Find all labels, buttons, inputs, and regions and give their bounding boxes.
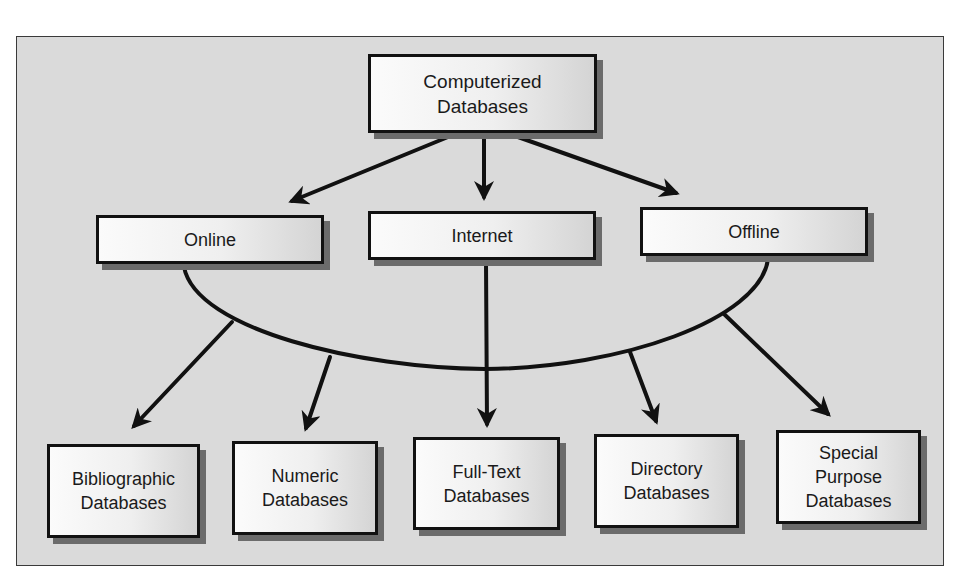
node-directory-databases: Directory Databases	[594, 434, 739, 528]
node-label: Online	[184, 228, 236, 252]
node-special-purpose-databases: Special Purpose Databases	[776, 430, 921, 524]
arrow-root-to-online	[292, 137, 448, 201]
node-bibliographic-databases: Bibliographic Databases	[47, 444, 200, 538]
arrow-to-special	[724, 314, 828, 414]
node-label: Numeric Databases	[262, 464, 348, 512]
arrow-to-bibliographic	[134, 322, 232, 426]
node-label: Special Purpose Databases	[805, 441, 891, 513]
arrow-to-fulltext	[486, 262, 487, 424]
node-label: Bibliographic Databases	[72, 467, 175, 515]
node-computerized-databases: Computerized Databases	[368, 54, 597, 133]
node-offline: Offline	[640, 207, 868, 256]
node-label: Internet	[451, 224, 512, 248]
node-label: Directory Databases	[623, 457, 709, 505]
node-label: Computerized Databases	[423, 69, 541, 119]
arrow-to-numeric	[306, 357, 330, 428]
node-numeric-databases: Numeric Databases	[232, 441, 378, 535]
node-online: Online	[96, 215, 324, 264]
node-label: Offline	[728, 220, 780, 244]
arrow-root-to-offline	[518, 137, 676, 193]
node-fulltext-databases: Full-Text Databases	[413, 437, 560, 530]
grouping-arc	[184, 259, 768, 369]
arrow-to-directory	[630, 352, 656, 421]
node-internet: Internet	[368, 211, 596, 260]
node-label: Full-Text Databases	[443, 460, 529, 508]
